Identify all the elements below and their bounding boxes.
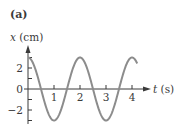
panel-label: (a): [10, 8, 28, 21]
x-tick-label: 3: [103, 91, 110, 103]
y-axis-label: x (cm): [10, 31, 43, 43]
y-tick-labels: 20−2: [8, 62, 23, 116]
oscillation-figure: (a) x (cm) 20−2 1234 t (s): [0, 0, 178, 134]
x-axis-label: t (s): [153, 83, 174, 95]
y-tick-label: −2: [8, 104, 23, 116]
x-tick-label: 1: [51, 91, 58, 103]
y-tick-label: 0: [16, 83, 23, 95]
x-axis-unit: (s): [157, 83, 174, 95]
x-tick-label: 2: [77, 91, 84, 103]
x-axis-arrow-icon: [143, 87, 151, 92]
y-axis-unit: (cm): [16, 31, 43, 43]
position-time-graph: (a) x (cm) 20−2 1234 t (s): [0, 0, 178, 134]
y-tick-label: 2: [16, 62, 23, 74]
y-axis-arrow-icon: [26, 45, 31, 53]
x-tick-label: 4: [129, 91, 136, 103]
